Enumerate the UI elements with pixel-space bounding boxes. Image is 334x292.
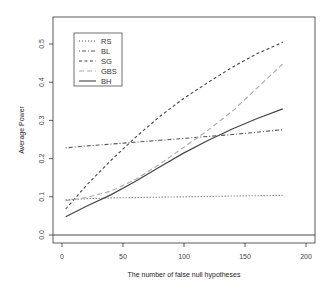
legend: RSBLSGGBSBH: [74, 33, 122, 86]
legend-label-gbs: GBS: [101, 67, 117, 76]
series-bl: [66, 130, 283, 148]
x-tick-label: 150: [239, 253, 251, 260]
y-axis-label: Average Power: [18, 105, 26, 153]
x-axis: 050100150200: [60, 243, 312, 260]
y-tick-label: 0.5: [38, 39, 45, 49]
x-tick-label: 200: [300, 253, 312, 260]
y-tick-label: 0.3: [38, 115, 45, 125]
y-tick-label: 0.4: [38, 77, 45, 87]
legend-label-sg: SG: [101, 57, 112, 66]
y-tick-label: 0.1: [38, 192, 45, 202]
series-rs: [66, 195, 283, 200]
y-tick-label: 0.0: [38, 230, 45, 240]
y-tick-label: 0.2: [38, 154, 45, 164]
legend-label-bh: BH: [101, 77, 111, 86]
line-chart: 0.00.10.20.30.40.5 050100150200 The numb…: [0, 0, 334, 292]
x-tick-label: 0: [60, 253, 64, 260]
series-bh: [66, 109, 283, 217]
x-axis-label: The number of false null hypotheses: [128, 271, 241, 279]
x-tick-label: 50: [119, 253, 127, 260]
y-axis: 0.00.10.20.30.40.5: [38, 39, 53, 240]
legend-box: [74, 33, 122, 86]
legend-label-bl: BL: [101, 47, 110, 56]
x-tick-label: 100: [178, 253, 190, 260]
legend-label-rs: RS: [101, 37, 111, 46]
